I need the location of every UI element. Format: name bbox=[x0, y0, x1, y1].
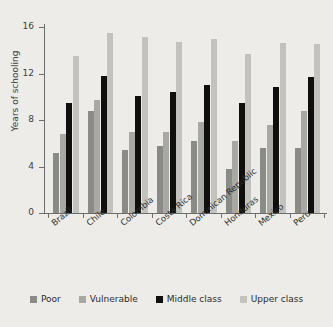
x-axis-labels: BrazilChileColombiaCosta RicaDominican R… bbox=[0, 0, 333, 327]
x-tick-label: Colombia bbox=[119, 195, 155, 228]
x-tick-label: Mexico bbox=[257, 202, 286, 228]
x-tick-mark bbox=[83, 214, 84, 218]
x-tick-label: Costa Rica bbox=[154, 192, 194, 228]
x-tick-label: Honduras bbox=[223, 195, 260, 228]
x-tick-mark bbox=[48, 214, 49, 218]
x-tick-mark bbox=[152, 214, 153, 218]
chart-legend: PoorVulnerableMiddle classUpper class bbox=[0, 295, 333, 304]
legend-item[interactable]: Vulnerable bbox=[79, 295, 138, 304]
x-tick-mark bbox=[290, 214, 291, 218]
legend-label: Middle class bbox=[167, 295, 222, 304]
x-tick-label: Peru bbox=[292, 209, 312, 228]
x-tick-label: Brazil bbox=[50, 206, 74, 228]
x-tick-mark bbox=[221, 214, 222, 218]
x-tick-label: Chile bbox=[85, 207, 107, 228]
x-tick-mark bbox=[255, 214, 256, 218]
legend-item[interactable]: Middle class bbox=[156, 295, 222, 304]
x-tick-mark bbox=[324, 214, 325, 218]
legend-swatch-icon bbox=[79, 296, 86, 303]
x-tick-mark bbox=[186, 214, 187, 218]
legend-label: Vulnerable bbox=[90, 295, 138, 304]
chart-figure: Years of schooling 0481216 BrazilChileCo… bbox=[0, 0, 333, 327]
legend-swatch-icon bbox=[156, 296, 163, 303]
legend-item[interactable]: Upper class bbox=[240, 295, 303, 304]
legend-swatch-icon bbox=[30, 296, 37, 303]
legend-label: Poor bbox=[41, 295, 61, 304]
legend-swatch-icon bbox=[240, 296, 247, 303]
legend-label: Upper class bbox=[251, 295, 303, 304]
legend-item[interactable]: Poor bbox=[30, 295, 61, 304]
x-tick-mark bbox=[117, 214, 118, 218]
